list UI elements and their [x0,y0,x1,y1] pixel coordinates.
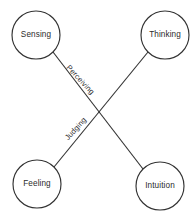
node-feeling[interactable]: Feeling [13,160,61,208]
edge-label-perceiving: Perceiving [64,63,96,96]
diagram-svg: Sensing Thinking Feeling Intuition Perce… [0,0,195,220]
node-feeling-label: Feeling [23,179,51,188]
node-sensing[interactable]: Sensing [12,11,60,59]
node-sensing-label: Sensing [21,30,52,39]
diagram-canvas: Sensing Thinking Feeling Intuition Perce… [0,0,195,220]
edge-label-judging: Judging [63,115,88,142]
node-intuition[interactable]: Intuition [136,162,184,210]
node-thinking[interactable]: Thinking [141,11,189,59]
node-intuition-label: Intuition [145,181,175,190]
node-thinking-label: Thinking [149,30,181,39]
